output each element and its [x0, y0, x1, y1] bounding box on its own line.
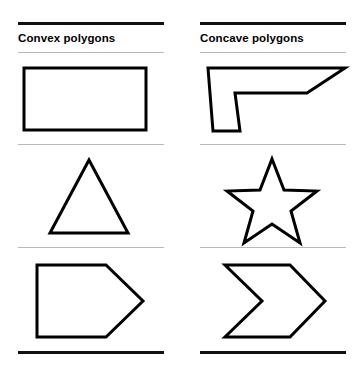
cell-convex-rectangle: [18, 55, 164, 143]
column-divider-1-concave: [200, 144, 346, 145]
shape-pentagon: [37, 265, 143, 337]
column-divider-2-convex: [18, 247, 164, 248]
cell-convex-pentagon: [18, 249, 164, 350]
column-title-convex: Convex polygons: [18, 31, 115, 45]
polygon-comparison-figure: Convex polygons Concave polygons: [0, 0, 364, 374]
shape-triangle: [50, 160, 128, 233]
cell-concave-chevron: [200, 249, 346, 350]
column-title-concave: Concave polygons: [200, 31, 304, 45]
column-top-rule-concave: [200, 22, 346, 25]
column-convex: Convex polygons: [18, 0, 164, 374]
column-header-underline-convex: [18, 52, 164, 53]
column-concave: Concave polygons: [200, 0, 346, 374]
shape-star: [227, 159, 317, 243]
cell-concave-star: [200, 146, 346, 246]
cell-concave-l-shape: [200, 55, 346, 143]
shape-l-shape: [208, 68, 345, 131]
column-divider-1-convex: [18, 144, 164, 145]
shape-rectangle: [24, 68, 146, 130]
column-bottom-rule-concave: [200, 351, 346, 354]
column-divider-2-concave: [200, 247, 346, 248]
shape-chevron: [225, 265, 325, 337]
cell-convex-triangle: [18, 146, 164, 246]
column-top-rule-convex: [18, 22, 164, 25]
column-header-underline-concave: [200, 52, 346, 53]
column-bottom-rule-convex: [18, 351, 164, 354]
